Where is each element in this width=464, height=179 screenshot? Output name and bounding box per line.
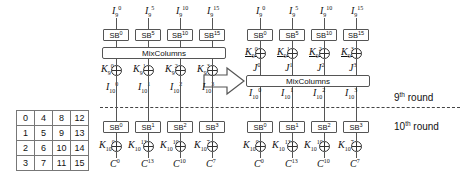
- sym-sup: 10: [182, 5, 188, 11]
- sym-sup: 10: [180, 158, 186, 164]
- sbox-index: 5: [151, 30, 154, 36]
- state-cell: 6: [35, 141, 53, 156]
- sbox-label: SB: [348, 31, 358, 40]
- sbox-label: SB: [285, 31, 295, 40]
- sym-base: K: [133, 63, 140, 74]
- xor-gate-icon: [287, 141, 298, 152]
- right-inter10-label-0: I100: [249, 88, 261, 98]
- left-ciphertext-label-0: C0: [110, 159, 120, 169]
- sbox-label: SB: [316, 31, 326, 40]
- sym-base: K: [243, 139, 250, 150]
- wire: [116, 76, 117, 121]
- right-sbox-bottom-3: SB3: [343, 121, 369, 133]
- state-cell: 7: [35, 156, 53, 171]
- right-inter10-label-2: I102: [313, 88, 325, 98]
- right-sbox-top-1: SB5: [279, 29, 305, 41]
- wire: [260, 133, 261, 141]
- sym-sub: 10: [201, 146, 207, 152]
- xor-gate-icon: [143, 141, 154, 152]
- left-sbox-top-1: SB5: [135, 29, 161, 41]
- sym-sup: 15: [213, 5, 219, 11]
- table-row: 0 4 8 12: [17, 111, 89, 126]
- sym-base: K: [165, 63, 172, 74]
- sbox-index: 15: [358, 30, 364, 36]
- wire: [292, 41, 293, 48]
- sym-base: K: [341, 46, 348, 57]
- sym-base: K: [309, 46, 316, 57]
- wire: [260, 59, 261, 75]
- wire: [324, 59, 325, 75]
- sbox-index: 0: [263, 122, 266, 128]
- xor-gate-icon: [207, 65, 218, 76]
- right-ciphertext-label-0: C0: [254, 159, 264, 169]
- wire: [180, 133, 181, 141]
- table-row: 2 6 10 14: [17, 141, 89, 156]
- xor-gate-icon: [175, 141, 186, 152]
- sbox-label: SB: [109, 123, 119, 132]
- left-sbox-top-0: SB0: [103, 29, 129, 41]
- sym-sub: 10: [141, 88, 147, 94]
- right-ciphertext-label-1: C13: [285, 159, 298, 169]
- wire: [180, 76, 181, 121]
- state-cell: 10: [53, 141, 71, 156]
- left-input-label-2: I910: [176, 6, 188, 16]
- sym-sup: 13: [292, 158, 298, 164]
- sym-sup: 1: [290, 87, 293, 93]
- sym-sup: 5: [151, 5, 154, 11]
- sym-base: C: [206, 158, 213, 169]
- sym-sub: 10: [109, 88, 115, 94]
- state-cell: 1: [17, 126, 35, 141]
- right-ciphertext-label-2: C10: [317, 159, 330, 169]
- sbox-index: 15: [214, 30, 220, 36]
- left-sbox-top-2: SB10: [167, 29, 193, 41]
- xor-gate-icon: [351, 141, 362, 152]
- sym-sub: 10: [345, 146, 351, 152]
- sbox-label: SB: [172, 31, 182, 40]
- sbox-label: SB: [205, 123, 215, 132]
- wire: [260, 18, 261, 29]
- right-sbox-top-0: SB0: [247, 29, 273, 41]
- xor-gate-icon: [207, 141, 218, 152]
- round-10-word: round: [411, 121, 439, 132]
- state-cell: 13: [71, 126, 89, 141]
- sbox-index: 3: [215, 122, 218, 128]
- state-cell: 11: [53, 156, 71, 171]
- round-10-label: 10th round: [394, 121, 439, 132]
- wire: [260, 41, 261, 48]
- sym-base: K: [194, 139, 201, 150]
- wire: [292, 59, 293, 75]
- sym-base: C: [110, 158, 117, 169]
- sbox-index: 1: [295, 122, 298, 128]
- sym-base: C: [350, 158, 357, 169]
- sbox-index: 10: [326, 30, 332, 36]
- xor-gate-icon: [319, 48, 330, 59]
- sym-sub: 10: [279, 146, 285, 152]
- wire: [324, 41, 325, 48]
- sym-base: C: [317, 158, 324, 169]
- sym-base: K: [338, 139, 345, 150]
- left-input-label-1: I95: [145, 6, 154, 16]
- sym-sup: 0: [258, 87, 261, 93]
- wire: [356, 41, 357, 48]
- sym-sup: 5: [295, 5, 298, 11]
- sym-base: C: [173, 158, 180, 169]
- sym-sup: 0: [118, 5, 121, 11]
- round-9-word: round: [405, 92, 433, 103]
- left-ciphertext-label-1: C13: [141, 159, 154, 169]
- state-cell: 9: [53, 126, 71, 141]
- xor-gate-icon: [111, 141, 122, 152]
- sym-sup: 13: [148, 158, 154, 164]
- right-input-label-1: I95: [289, 6, 298, 16]
- wire: [148, 18, 149, 29]
- sbox-label: SB: [141, 123, 151, 132]
- right-sbox-top-3: SB15: [343, 29, 369, 41]
- round-10-number: 10: [394, 121, 405, 132]
- wire: [116, 133, 117, 141]
- right-input-label-3: I915: [351, 6, 363, 16]
- sym-base: C: [285, 158, 292, 169]
- sym-base: K: [99, 139, 106, 150]
- xor-gate-icon: [255, 141, 266, 152]
- state-cell: 14: [71, 141, 89, 156]
- right-inter10-label-3: I103: [345, 88, 357, 98]
- sbox-label: SB: [141, 31, 151, 40]
